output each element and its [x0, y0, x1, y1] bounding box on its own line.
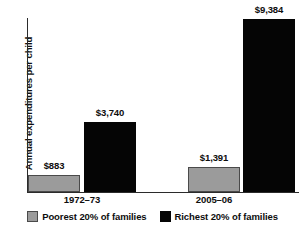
black-swatch-icon [160, 211, 171, 222]
bar-richest-1972-73[interactable] [84, 122, 136, 192]
gray-swatch-icon [27, 211, 38, 222]
bar-poorest-2005-06[interactable] [188, 167, 240, 192]
value-label-richest-2005-06: $9,384 [240, 4, 298, 15]
plot-area: $883 $3,740 1972–73 $1,391 $9,384 2005–0… [0, 0, 305, 233]
category-label-1972-73: 1972–73 [55, 194, 109, 205]
legend-label-poorest: Poorest 20% of families [42, 211, 146, 222]
legend-item-richest[interactable]: Richest 20% of families [160, 211, 278, 222]
bar-poorest-1972-73[interactable] [28, 175, 80, 192]
value-label-poorest-2005-06: $1,391 [185, 152, 243, 163]
value-label-poorest-1972-73: $883 [28, 160, 80, 171]
bar-richest-2005-06[interactable] [243, 19, 295, 192]
legend-item-poorest[interactable]: Poorest 20% of families [27, 211, 146, 222]
chart-legend: Poorest 20% of families Richest 20% of f… [0, 211, 305, 222]
x-axis-line [27, 192, 299, 193]
bar-chart-figure: Annual expenditures per child $883 $3,74… [0, 0, 305, 233]
category-label-2005-06: 2005–06 [187, 194, 241, 205]
value-label-richest-1972-73: $3,740 [84, 107, 136, 118]
legend-label-richest: Richest 20% of families [175, 211, 278, 222]
